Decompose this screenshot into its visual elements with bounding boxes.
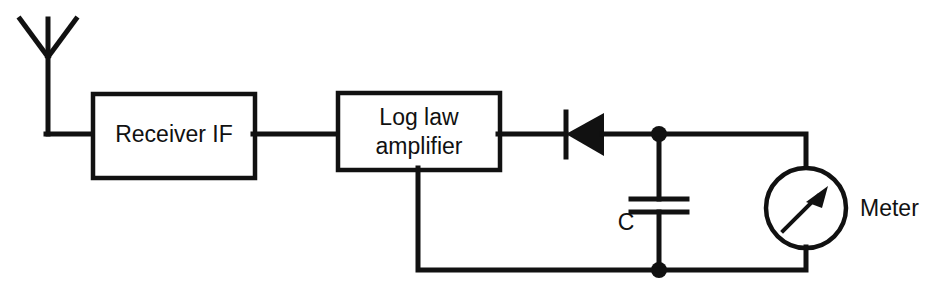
antenna-left-arm [20,19,48,57]
circuit-canvas: Receiver IF Log law amplifier [0,0,937,297]
diode-symbol [566,112,662,157]
wire-node-to-meter-top [657,134,806,169]
receiver-if-label: Receiver IF [115,121,233,147]
diode-triangle [566,113,604,156]
capacitor-symbol: C [618,134,687,272]
log-law-amplifier-label-line2: amplifier [376,133,463,159]
antenna-right-arm [48,19,76,57]
log-law-amplifier-label-line1: Log law [379,104,459,130]
wire-meter-to-bottom-node [661,247,806,270]
antenna-symbol [20,19,95,134]
capacitor-label: C [618,209,635,235]
circuit-diagram: Receiver IF Log law amplifier [0,0,937,297]
block-receiver-if[interactable]: Receiver IF [93,94,255,178]
meter-symbol[interactable]: Meter [766,168,919,248]
block-log-law-amplifier[interactable]: Log law amplifier [338,93,500,170]
meter-label: Meter [860,195,919,221]
